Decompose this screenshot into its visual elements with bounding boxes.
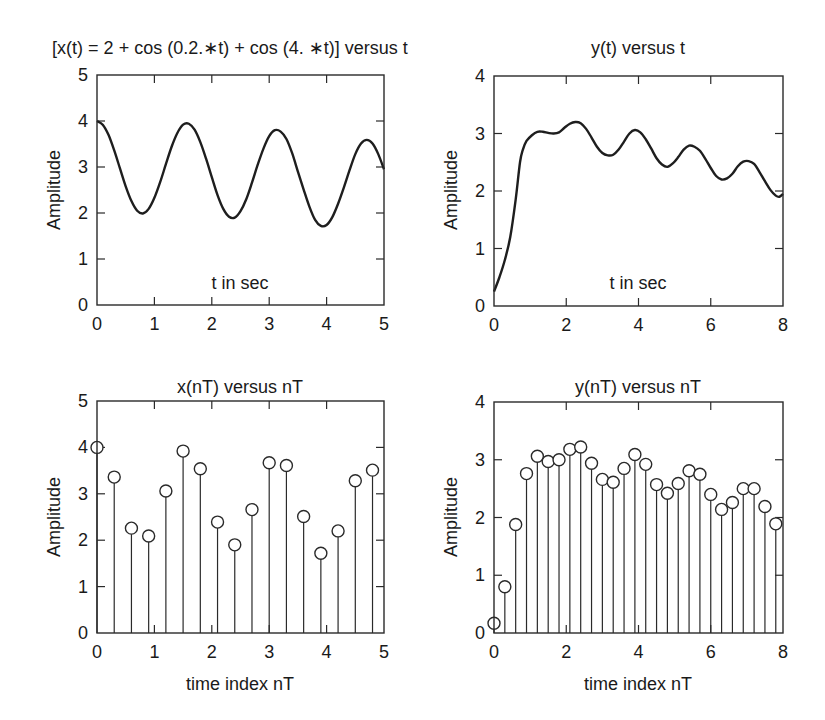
- x-tick-label: 4: [633, 642, 643, 662]
- stem-marker: [177, 445, 189, 457]
- x-tick-label: 5: [379, 642, 389, 662]
- stem-marker: [661, 487, 673, 499]
- panel-x-of-t: [x(t) = 2 + cos (0.2.∗t) + cos (4. ∗t)] …: [44, 38, 408, 334]
- stem-marker: [332, 525, 344, 537]
- stem-marker: [263, 457, 275, 469]
- y-axis-label: Amplitude: [441, 477, 461, 557]
- stem-marker: [726, 496, 738, 508]
- stem-marker: [672, 477, 684, 489]
- figure-canvas: [x(t) = 2 + cos (0.2.∗t) + cos (4. ∗t)] …: [0, 0, 825, 720]
- stem-marker: [651, 479, 663, 491]
- stem-marker: [607, 476, 619, 488]
- x-tick-label: 8: [778, 642, 788, 662]
- y-tick-label: 5: [78, 391, 88, 411]
- stem-marker: [143, 530, 155, 542]
- panel-y-of-t: y(t) versus t t in sec Amplitude 0246801…: [441, 38, 788, 335]
- y-tick-label: 1: [78, 577, 88, 597]
- stem-marker: [564, 443, 576, 455]
- line-series: [97, 121, 384, 226]
- line-series: [494, 122, 783, 292]
- y-tick-label: 3: [78, 157, 88, 177]
- stem-marker: [298, 511, 310, 523]
- stem-marker: [596, 473, 608, 485]
- x-tick-label: 2: [207, 642, 217, 662]
- axis-ticks: 0246801234: [475, 66, 788, 335]
- plot-frame: [494, 76, 783, 306]
- stem-marker: [315, 547, 327, 559]
- y-tick-label: 1: [78, 249, 88, 269]
- y-tick-label: 3: [475, 124, 485, 144]
- y-tick-label: 3: [475, 450, 485, 470]
- x-tick-label: 8: [778, 315, 788, 335]
- y-tick-label: 0: [78, 295, 88, 315]
- stem-marker: [586, 457, 598, 469]
- x-tick-label: 3: [264, 314, 274, 334]
- x-tick-label: 3: [264, 642, 274, 662]
- stem-marker: [510, 518, 522, 530]
- stem-marker: [499, 581, 511, 593]
- x-tick-label: 2: [561, 315, 571, 335]
- stem-series: [488, 441, 782, 633]
- stem-marker: [748, 483, 760, 495]
- y-tick-label: 0: [78, 623, 88, 643]
- y-tick-label: 2: [78, 530, 88, 550]
- stem-marker: [229, 539, 241, 551]
- stem-marker: [280, 459, 292, 471]
- panel-title: [x(t) = 2 + cos (0.2.∗t) + cos (4. ∗t)] …: [52, 38, 408, 58]
- x-tick-label: 0: [92, 314, 102, 334]
- y-tick-label: 4: [78, 111, 88, 131]
- stem-marker: [629, 449, 641, 461]
- y-tick-label: 1: [475, 239, 485, 259]
- stem-marker: [212, 516, 224, 528]
- stem-marker: [521, 468, 533, 480]
- stem-marker: [108, 471, 120, 483]
- y-axis-label: Amplitude: [44, 477, 64, 557]
- stem-marker: [618, 462, 630, 474]
- stem-marker: [367, 464, 379, 476]
- x-tick-label: 4: [322, 642, 332, 662]
- stem-marker: [770, 518, 782, 530]
- x-tick-label: 0: [489, 315, 499, 335]
- y-tick-label: 0: [475, 623, 485, 643]
- y-tick-label: 3: [78, 484, 88, 504]
- stem-marker: [759, 501, 771, 513]
- y-axis-label: Amplitude: [441, 150, 461, 230]
- stem-marker: [705, 488, 717, 500]
- x-tick-label: 2: [207, 314, 217, 334]
- x-tick-label: 1: [149, 642, 159, 662]
- stem-series: [91, 441, 379, 633]
- panel-x-of-nT: x(nT) versus nT time index nT Amplitude …: [44, 377, 389, 694]
- x-axis-label: t in sec: [609, 273, 666, 293]
- x-tick-label: 6: [706, 642, 716, 662]
- x-tick-label: 2: [561, 642, 571, 662]
- y-tick-label: 2: [475, 181, 485, 201]
- y-tick-label: 4: [78, 437, 88, 457]
- panel-title: y(t) versus t: [591, 38, 685, 58]
- x-tick-label: 5: [379, 314, 389, 334]
- stem-marker: [542, 455, 554, 467]
- panel-y-of-nT: y(nT) versus nT time index nT Amplitude …: [441, 377, 788, 694]
- x-tick-label: 4: [633, 315, 643, 335]
- x-tick-label: 0: [489, 642, 499, 662]
- stem-marker: [716, 503, 728, 515]
- axis-ticks: 012345012345: [78, 65, 389, 334]
- y-axis-label: Amplitude: [44, 150, 64, 230]
- x-axis-label: time index nT: [584, 674, 692, 694]
- y-tick-label: 0: [475, 296, 485, 316]
- x-tick-label: 6: [706, 315, 716, 335]
- stem-marker: [246, 504, 258, 516]
- axis-ticks: 0246801234: [475, 392, 788, 662]
- x-axis-label: time index nT: [186, 674, 294, 694]
- y-tick-label: 5: [78, 65, 88, 85]
- stem-marker: [694, 468, 706, 480]
- y-tick-label: 2: [78, 203, 88, 223]
- stem-marker: [553, 454, 565, 466]
- y-tick-label: 2: [475, 508, 485, 528]
- stem-marker: [125, 522, 137, 534]
- y-tick-label: 4: [475, 66, 485, 86]
- x-tick-label: 1: [149, 314, 159, 334]
- y-tick-label: 4: [475, 392, 485, 412]
- stem-marker: [160, 485, 172, 497]
- panel-title: x(nT) versus nT: [177, 377, 303, 397]
- x-tick-label: 0: [92, 642, 102, 662]
